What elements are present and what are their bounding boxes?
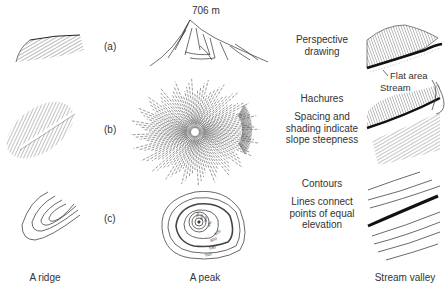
landform-diagram <box>0 0 447 291</box>
valley-contours <box>368 172 440 260</box>
peak-hachures <box>131 79 260 185</box>
hachures-line-2: shading indicate <box>272 123 372 135</box>
contours-title: Contours <box>282 178 362 190</box>
ridge-contours <box>22 192 80 240</box>
peak-perspective-drawing <box>150 20 268 66</box>
ridge-perspective-drawing <box>16 35 84 62</box>
row-label-b: (b) <box>104 124 116 135</box>
caption-valley: Stream valley <box>365 272 445 283</box>
perspective-line-1: Perspective <box>282 34 362 46</box>
peak-elevation-label: 706 m <box>192 5 220 16</box>
row-label-c: (c) <box>104 213 116 224</box>
valley-perspective-drawing <box>367 25 442 72</box>
peak-contours <box>162 191 245 259</box>
hachures-description: Spacing and shading indicate slope steep… <box>272 111 372 146</box>
ridge-hachures <box>0 90 84 170</box>
contours-line-3: elevation <box>272 219 372 231</box>
stream-label: Stream <box>380 82 411 93</box>
perspective-description: Perspective drawing <box>282 34 362 57</box>
contours-line-1: Lines connect <box>272 196 372 208</box>
hachures-line-3: slope steepness <box>272 134 372 146</box>
hachures-line-1: Spacing and <box>272 111 372 123</box>
hachures-title: Hachures <box>282 93 362 105</box>
contours-line-2: points of equal <box>272 208 372 220</box>
valley-hachures <box>367 84 440 165</box>
flat-area-label: Flat area <box>390 70 428 81</box>
contours-description: Lines connect points of equal elevation <box>272 196 372 231</box>
caption-peak: A peak <box>170 272 240 283</box>
perspective-line-2: drawing <box>282 46 362 58</box>
caption-ridge: A ridge <box>10 272 80 283</box>
row-label-a: (a) <box>104 41 116 52</box>
